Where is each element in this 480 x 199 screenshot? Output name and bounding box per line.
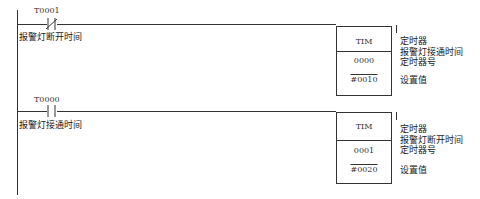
instr-note: 定时器 [400,124,427,134]
rung-wire [17,111,47,112]
instruction-name: TIM [337,37,391,46]
sv-note: 设置值 [400,165,427,175]
sv-note: 设置值 [400,75,427,85]
output-tick [396,25,397,33]
set-value: #0010 [350,75,377,84]
left-power-rail [17,10,18,195]
output-tick [396,112,397,120]
contact-address: T0001 [34,6,60,15]
timer-no-note: 定时器号 [400,57,436,67]
rung-wire [57,24,336,25]
block-divider [337,140,391,141]
rung-wire [17,24,47,25]
contact-address: T0000 [34,95,60,104]
contact-comment: 报警灯接通时间 [19,118,82,131]
instruction-name: TIM [337,122,391,131]
comment-note: 报警灯断开时间 [400,135,463,145]
timer-no-note: 定时器号 [400,145,436,155]
block-divider [337,51,391,52]
set-value: #0020 [350,165,377,174]
timer-number: 0001 [337,146,391,155]
timer-instruction-block[interactable]: TIM 0001 #0020 [336,112,392,184]
timer-number: 0000 [337,56,391,65]
timer-instruction-block[interactable]: TIM 0000 #0010 [336,26,392,96]
instr-note: 定时器 [400,36,427,46]
comment-note: 报警灯接通时间 [400,47,463,57]
rung-wire [57,111,336,112]
contact-comment: 报警灯断开时间 [19,30,82,43]
